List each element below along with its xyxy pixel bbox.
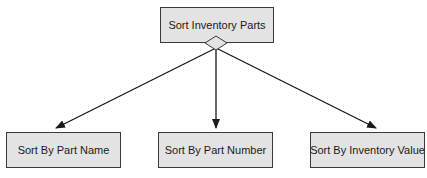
child-node-by-name: Sort By Part Name bbox=[6, 132, 121, 168]
diamond-connector-icon bbox=[205, 36, 227, 50]
child-node-label: Sort By Inventory Value bbox=[310, 144, 425, 156]
child-node-by-value: Sort By Inventory Value bbox=[310, 132, 425, 168]
child-node-by-number: Sort By Part Number bbox=[158, 132, 273, 168]
child-node-label: Sort By Part Number bbox=[165, 144, 266, 156]
child-node-label: Sort By Part Name bbox=[18, 144, 110, 156]
